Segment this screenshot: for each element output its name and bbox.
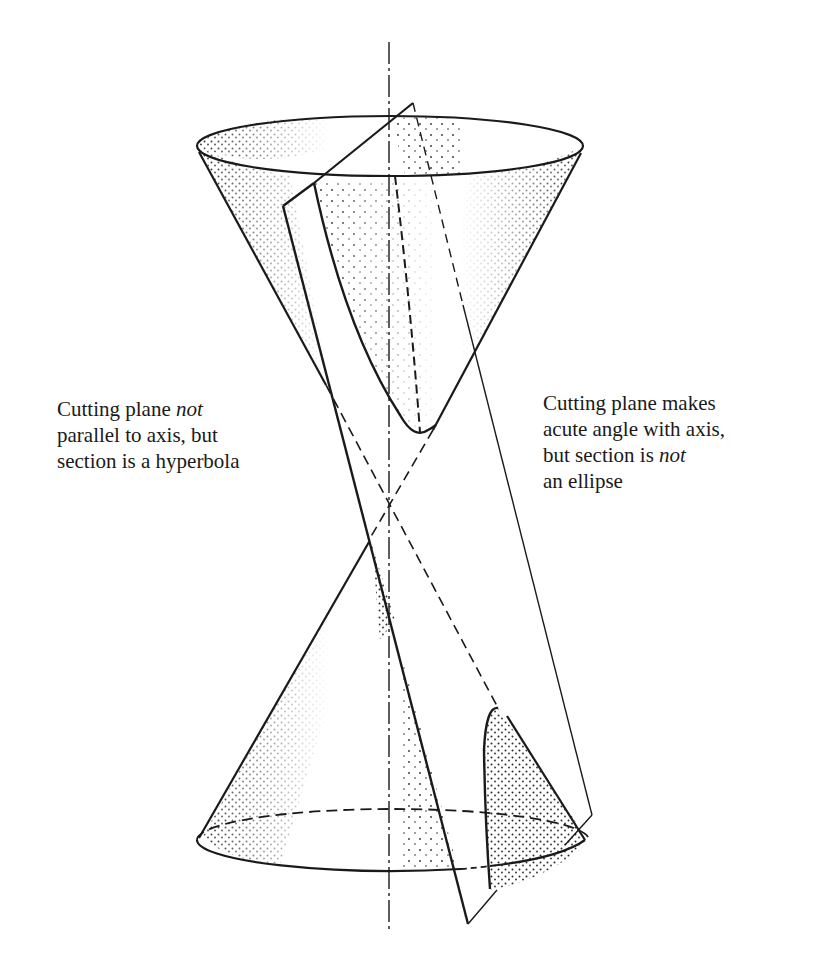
emphasis-not: not xyxy=(659,443,686,467)
hidden-generators xyxy=(326,385,497,706)
caption-right-line-4: an ellipse xyxy=(543,468,725,494)
plane-back-edge xyxy=(463,305,592,815)
emphasis-not: not xyxy=(176,397,203,421)
plane-bottom-edge-lower xyxy=(468,890,497,924)
caption-left-line-1: Cutting plane not xyxy=(57,396,240,422)
caption-right-line-1: Cutting plane makes xyxy=(543,390,725,416)
caption-right-line-3: but section is not xyxy=(543,442,725,468)
caption-right-line-2: acute angle with axis, xyxy=(543,416,725,442)
caption-left-line-2: parallel to axis, but xyxy=(57,422,240,448)
upper-rim-inner-shading-center xyxy=(392,117,460,175)
lower-cone-center-shading xyxy=(400,650,458,871)
hidden-generator-a xyxy=(326,385,497,706)
lower-base-front-dashed-plane xyxy=(461,866,490,869)
caption-left-hyperbola: Cutting plane not parallel to axis, but … xyxy=(57,396,240,474)
caption-left-line-3: section is a hyperbola xyxy=(57,448,240,474)
caption-right-not-ellipse: Cutting plane makes acute angle with axi… xyxy=(543,390,725,494)
lower-nappe xyxy=(197,538,589,890)
upper-nappe xyxy=(197,116,583,500)
lower-hyperbola-inner-shading xyxy=(483,708,585,890)
